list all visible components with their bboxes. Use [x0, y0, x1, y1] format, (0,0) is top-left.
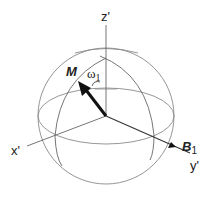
x-axis-label: x' [11, 143, 20, 158]
m-vector [86, 90, 106, 116]
m-label: M [66, 64, 78, 79]
bloch-sphere-diagram: z' x' y' M ω1 B1 [0, 0, 218, 197]
z-axis-label: z' [101, 9, 110, 24]
b1-arrowhead [168, 142, 176, 148]
b1-label: B1 [182, 139, 197, 156]
y-axis [106, 116, 190, 153]
omega-label: ω1 [87, 66, 101, 83]
y-axis-label: y' [190, 158, 199, 173]
